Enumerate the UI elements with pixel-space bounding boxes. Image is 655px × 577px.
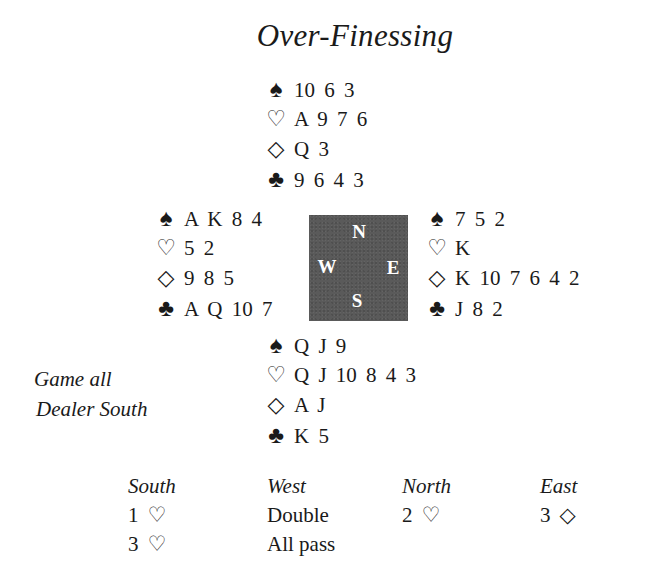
diamond-icon: ◇ [264,390,288,420]
bid-level: 2 [402,503,413,527]
compass-box: N W E S [309,215,408,321]
east-clubs-row: ♣J 8 2 [425,293,579,323]
west-hearts: 5 2 [184,236,214,260]
west-diamonds-row: ◇9 8 5 [154,263,272,293]
auction-header-east: East [540,472,620,501]
south-clubs-row: ♣K 5 [264,420,416,450]
east-diamonds-row: ◇K 10 7 6 4 2 [425,263,579,293]
diamond-icon: ◇ [154,263,178,293]
east-spades-row: ♠7 5 2 [425,203,579,233]
west-clubs-row: ♣A Q 10 7 [154,293,272,323]
south-diamonds-row: ◇A J [264,390,416,420]
auction-round-1: 1♡ Double 2♡ 3◇ [128,501,620,530]
compass-west-label: W [315,256,339,278]
east-clubs: J 8 2 [455,297,503,321]
north-hand: ♠10 6 3 ♡A 9 7 6 ◇Q 3 ♣9 6 4 3 [264,74,367,194]
diamond-icon: ◇ [264,134,288,164]
south-spades: Q J 9 [294,334,346,358]
compass-south-label: S [345,290,369,312]
south-diamonds: A J [294,393,325,417]
heart-icon: ♡ [264,104,288,134]
heart-icon: ♡ [148,503,167,527]
north-clubs: 9 6 4 3 [294,168,364,192]
auction-bid: All pass [267,530,402,559]
auction-bid: Double [267,501,402,530]
spade-icon: ♠ [264,74,288,104]
north-diamonds-row: ◇Q 3 [264,134,367,164]
vulnerability-label: Game all [34,364,147,394]
page-title: Over-Finessing [0,18,655,54]
east-hand: ♠7 5 2 ♡K ◇K 10 7 6 4 2 ♣J 8 2 [425,203,579,323]
west-spades: A K 8 4 [184,207,262,231]
club-icon: ♣ [264,164,288,194]
club-icon: ♣ [154,293,178,323]
auction-bid: 2♡ [402,501,540,530]
south-hearts: Q J 10 8 4 3 [294,363,416,387]
auction-bid: 3♡ [128,530,267,559]
heart-icon: ♡ [154,233,178,263]
north-diamonds: Q 3 [294,137,329,161]
south-hand: ♠Q J 9 ♡Q J 10 8 4 3 ◇A J ♣K 5 [264,330,416,450]
auction-header-west: West [267,472,402,501]
east-hearts: K [455,236,470,260]
south-clubs: K 5 [294,424,329,448]
spade-icon: ♠ [425,203,449,233]
north-clubs-row: ♣9 6 4 3 [264,164,367,194]
bid-level: 1 [128,503,139,527]
bid-level: 3 [540,503,551,527]
auction-bid: 1♡ [128,501,267,530]
auction-table: South West North East 1♡ Double 2♡ 3◇ 3♡… [128,472,620,559]
south-hearts-row: ♡Q J 10 8 4 3 [264,360,416,390]
auction-bid [402,530,540,559]
west-hand: ♠A K 8 4 ♡5 2 ◇9 8 5 ♣A Q 10 7 [154,203,272,323]
north-hearts-row: ♡A 9 7 6 [264,104,367,134]
club-icon: ♣ [264,420,288,450]
auction-header-row: South West North East [128,472,620,501]
heart-icon: ♡ [422,503,441,527]
west-spades-row: ♠A K 8 4 [154,203,272,233]
heart-icon: ♡ [264,360,288,390]
auction-bid [540,530,620,559]
heart-icon: ♡ [425,233,449,263]
compass-east-label: E [381,257,405,279]
auction-header-north: North [402,472,540,501]
heart-icon: ♡ [148,532,167,556]
spade-icon: ♠ [154,203,178,233]
auction-header-south: South [128,472,267,501]
north-spades-row: ♠10 6 3 [264,74,367,104]
south-spades-row: ♠Q J 9 [264,330,416,360]
north-spades: 10 6 3 [294,78,355,102]
north-hearts: A 9 7 6 [294,107,367,131]
east-diamonds: K 10 7 6 4 2 [455,266,579,290]
diamond-icon: ◇ [425,263,449,293]
auction-bid: 3◇ [540,501,620,530]
bid-level: 3 [128,532,139,556]
deal-conditions: Game all Dealer South [34,364,147,424]
dealer-label: Dealer South [34,394,147,424]
west-hearts-row: ♡5 2 [154,233,272,263]
spade-icon: ♠ [264,330,288,360]
west-clubs: A Q 10 7 [184,297,272,321]
east-hearts-row: ♡K [425,233,579,263]
compass-north-label: N [347,221,371,243]
club-icon: ♣ [425,293,449,323]
west-diamonds: 9 8 5 [184,266,234,290]
diamond-icon: ◇ [560,503,576,527]
auction-round-2: 3♡ All pass [128,530,620,559]
east-spades: 7 5 2 [455,207,505,231]
